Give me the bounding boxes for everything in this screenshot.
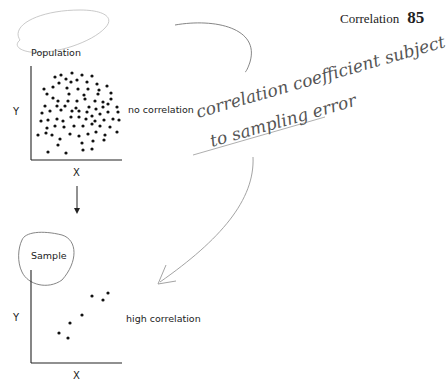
scatter-point xyxy=(80,141,83,144)
scatter-point xyxy=(53,124,56,127)
scatter-point xyxy=(76,87,79,90)
figure-graphics: correlation coefficient subject to sampl… xyxy=(0,0,446,388)
scatter-point xyxy=(55,104,58,107)
scatter-point xyxy=(39,119,42,122)
scatter-point xyxy=(101,100,104,103)
scatter-point xyxy=(82,93,85,96)
scatter-point xyxy=(117,118,120,121)
scatter-point xyxy=(36,133,39,136)
scatter-point xyxy=(74,106,77,109)
scatter-point xyxy=(75,78,78,81)
scatter-point xyxy=(102,118,105,121)
scatter-point xyxy=(77,109,80,112)
scatter-point xyxy=(59,108,62,111)
sample-x-axis-label: X xyxy=(73,370,80,381)
scatter-point xyxy=(45,92,48,95)
scatter-point xyxy=(40,111,43,114)
scatter-point xyxy=(77,134,80,137)
scatter-point xyxy=(106,291,109,294)
handwritten-arrow-curve xyxy=(160,157,253,282)
scatter-point xyxy=(94,130,97,133)
scatter-point xyxy=(102,138,105,141)
scatter-point xyxy=(90,74,93,77)
scatter-point xyxy=(63,104,66,107)
scatter-point xyxy=(44,131,47,134)
scatter-point xyxy=(109,91,112,94)
scatter-point xyxy=(59,73,62,76)
scatter-point xyxy=(42,87,45,90)
scatter-point xyxy=(65,86,68,89)
scatter-point xyxy=(115,105,118,108)
scatter-point xyxy=(43,104,46,107)
scatter-point xyxy=(111,117,114,120)
scatter-point xyxy=(97,88,100,91)
scatter-point xyxy=(94,107,97,110)
scatter-point xyxy=(83,97,86,100)
scatter-point xyxy=(69,80,72,83)
scatter-point xyxy=(90,114,93,117)
scatter-point xyxy=(68,132,71,135)
scatter-point xyxy=(81,148,84,151)
scatter-point xyxy=(70,71,73,74)
scatter-point xyxy=(108,125,111,128)
scatter-point xyxy=(72,124,75,127)
population-x-axis-label: X xyxy=(73,167,80,178)
scatter-point xyxy=(93,119,96,122)
scatter-point xyxy=(96,92,99,95)
scatter-point xyxy=(68,321,71,324)
scatter-point xyxy=(109,97,112,100)
scatter-point xyxy=(64,151,67,154)
population-annotation: no correlation xyxy=(128,104,194,115)
sample-y-axis-label: Y xyxy=(13,312,19,323)
scatter-point xyxy=(90,147,93,150)
scatter-point xyxy=(90,122,93,125)
scatter-point xyxy=(86,87,89,90)
scatter-point xyxy=(115,130,118,133)
scatter-point xyxy=(70,109,73,112)
scatter-point xyxy=(61,119,64,122)
scatter-point xyxy=(46,118,49,121)
scatter-point xyxy=(98,124,101,127)
scatter-point xyxy=(55,117,58,120)
handwritten-top-arc xyxy=(175,23,251,72)
sample-axes xyxy=(31,270,122,363)
scatter-point xyxy=(103,133,106,136)
scatter-point xyxy=(56,143,59,146)
scatter-point xyxy=(95,82,98,85)
scatter-point xyxy=(64,77,67,80)
scatter-point xyxy=(105,84,108,87)
scatter-point xyxy=(116,110,119,113)
scatter-point xyxy=(98,112,101,115)
scatter-point xyxy=(101,105,104,108)
population-scatter-points xyxy=(36,71,120,154)
scatter-point xyxy=(84,117,87,120)
population-label: Population xyxy=(31,47,81,58)
scatter-point xyxy=(58,137,61,140)
scatter-point xyxy=(62,125,65,128)
scatter-point xyxy=(66,99,69,102)
scatter-point xyxy=(56,99,59,102)
scatter-point xyxy=(90,294,93,297)
scatter-point xyxy=(57,331,60,334)
scatter-point xyxy=(45,126,48,129)
scatter-point xyxy=(93,99,96,102)
scatter-point xyxy=(106,110,109,113)
scatter-point xyxy=(77,115,80,118)
scatter-point xyxy=(91,139,94,142)
scatter-point xyxy=(101,298,104,301)
population-y-axis-label: Y xyxy=(13,106,19,117)
scatter-point xyxy=(46,150,49,153)
scatter-point xyxy=(87,105,90,108)
sample-scatter-points xyxy=(57,291,109,339)
scatter-point xyxy=(57,81,60,84)
scatter-point xyxy=(53,75,56,78)
scatter-point xyxy=(66,336,69,339)
scatter-point xyxy=(51,85,54,88)
scatter-point xyxy=(86,132,89,135)
scatter-point xyxy=(51,96,54,99)
scatter-point xyxy=(67,92,70,95)
scatter-point xyxy=(75,99,78,102)
scatter-point xyxy=(80,313,83,316)
scatter-point xyxy=(50,133,53,136)
scatter-point xyxy=(106,102,109,105)
